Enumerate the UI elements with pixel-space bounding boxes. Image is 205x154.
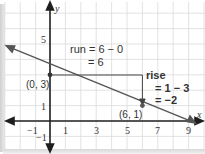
x-tick-label: 5 bbox=[125, 125, 130, 136]
rise-label-line3: = −2 bbox=[155, 94, 177, 106]
y-axis-down-arrow-icon bbox=[47, 144, 54, 152]
y-axis-label: y bbox=[54, 3, 60, 14]
slope-diagram: −1 1 3 5 7 9 5 1 −1 x y (0, 3) (6, 1) ru… bbox=[0, 0, 205, 154]
x-tick-label: 9 bbox=[186, 125, 191, 136]
x-tick-label: 7 bbox=[155, 125, 160, 136]
point-6-1 bbox=[140, 103, 145, 108]
point-0-3 bbox=[48, 72, 53, 77]
x-tick-label: 3 bbox=[94, 125, 99, 136]
point-label-6-1: (6, 1) bbox=[119, 109, 142, 120]
x-axis-label: x bbox=[196, 109, 202, 120]
run-label-line1: run = 6 − 0 bbox=[70, 43, 123, 55]
y-tick-label: −1 bbox=[36, 132, 47, 143]
rise-label-line1: rise bbox=[146, 69, 166, 81]
y-tick-label: 1 bbox=[41, 101, 46, 112]
coordinate-plane: −1 1 3 5 7 9 5 1 −1 x y (0, 3) (6, 1) ru… bbox=[0, 0, 205, 154]
rise-label-line2: = 1 − 3 bbox=[155, 82, 189, 94]
line-left-arrow-icon bbox=[6, 46, 15, 53]
x-tick-label: 1 bbox=[63, 125, 68, 136]
y-axis-up-arrow-icon bbox=[47, 2, 54, 10]
x-axis-left-arrow-icon bbox=[6, 118, 14, 125]
run-label-line2: = 6 bbox=[88, 56, 104, 68]
y-tick-label: 5 bbox=[41, 34, 46, 45]
point-label-0-3: (0, 3) bbox=[26, 79, 49, 90]
